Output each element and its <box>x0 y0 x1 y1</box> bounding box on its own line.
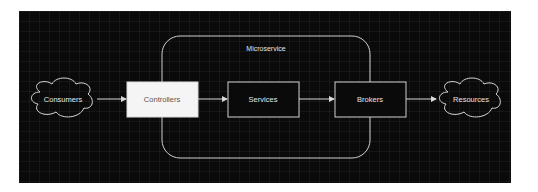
services-label: Services <box>249 95 278 104</box>
consumers-label: Consumers <box>44 95 82 104</box>
resources-label: Resources <box>453 95 489 104</box>
microservice-label: Microservice <box>246 45 285 52</box>
brokers-label: Brokers <box>357 95 383 104</box>
controllers-label: Controllers <box>144 95 180 104</box>
